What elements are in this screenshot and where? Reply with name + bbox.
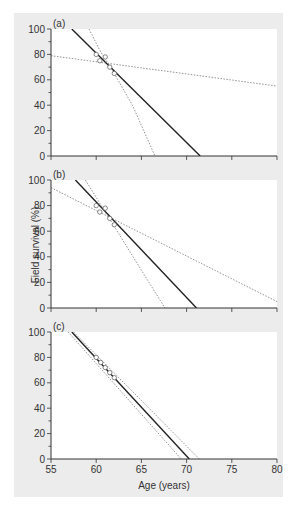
- y-tick-label: 100: [28, 24, 45, 35]
- x-tick-label: 70: [181, 464, 193, 475]
- y-tick-label: 60: [34, 377, 46, 388]
- panel-label: (a): [53, 18, 65, 29]
- chart-panel-c: 020406080100556065707580(c): [28, 321, 283, 475]
- x-tick-label: 75: [226, 464, 238, 475]
- y-axis-title: Field survival (%): [30, 207, 41, 284]
- x-tick-label: 60: [91, 464, 103, 475]
- data-point: [112, 376, 116, 380]
- data-point: [94, 355, 98, 359]
- data-point: [103, 206, 107, 210]
- data-point: [112, 223, 116, 227]
- plot-area: [51, 180, 277, 308]
- y-tick-label: 0: [39, 303, 45, 314]
- data-point: [108, 65, 112, 69]
- data-point: [98, 59, 102, 63]
- y-tick-label: 0: [39, 151, 45, 162]
- y-tick-label: 0: [39, 454, 45, 465]
- data-point: [103, 365, 107, 369]
- y-tick-label: 100: [28, 175, 45, 186]
- x-axis-title: Age (years): [138, 480, 190, 491]
- data-point: [103, 55, 107, 59]
- x-tick-label: 65: [136, 464, 148, 475]
- y-tick-label: 20: [34, 125, 46, 136]
- y-tick-label: 80: [34, 352, 46, 363]
- y-tick-label: 100: [28, 327, 45, 338]
- data-point: [94, 203, 98, 207]
- panel-label: (c): [53, 321, 65, 332]
- data-point: [112, 71, 116, 75]
- data-point: [94, 52, 98, 56]
- y-tick-label: 60: [34, 74, 46, 85]
- y-tick-label: 40: [34, 100, 46, 111]
- panel-label: (b): [53, 169, 65, 180]
- data-point: [108, 370, 112, 374]
- chart-panel-b: 020406080100(b): [28, 169, 277, 314]
- x-tick-label: 80: [271, 464, 283, 475]
- x-tick-label: 55: [45, 464, 57, 475]
- y-tick-label: 80: [34, 49, 46, 60]
- figure-caption: [8, 501, 288, 507]
- data-point: [98, 210, 102, 214]
- y-tick-label: 20: [34, 428, 46, 439]
- figure: 020406080100(a)020406080100(b)0204060801…: [0, 0, 292, 507]
- y-tick-label: 40: [34, 403, 46, 414]
- plot-area: [51, 29, 277, 156]
- data-point: [108, 216, 112, 220]
- data-point: [99, 360, 103, 364]
- chart-panel-a: 020406080100(a): [28, 18, 277, 162]
